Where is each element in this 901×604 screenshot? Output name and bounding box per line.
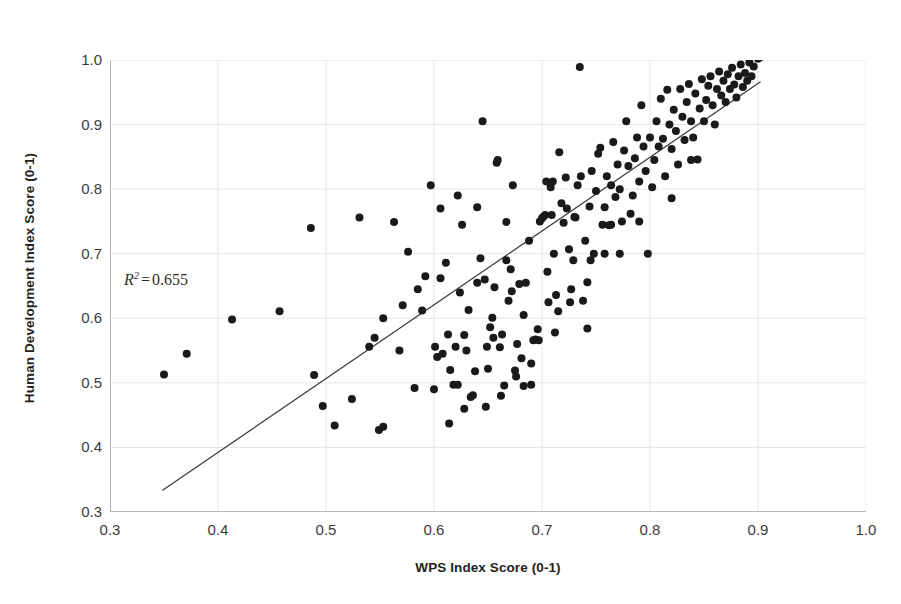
data-point — [730, 81, 738, 89]
data-point — [592, 187, 600, 195]
data-point — [609, 138, 617, 146]
data-point — [563, 205, 571, 213]
plot-canvas — [110, 60, 866, 512]
data-point — [577, 172, 585, 180]
data-point — [583, 278, 591, 286]
data-point — [542, 177, 550, 185]
data-point — [486, 323, 494, 331]
y-tick-label-0.8: 0.8 — [56, 180, 102, 197]
data-point — [460, 331, 468, 339]
data-point — [490, 283, 498, 291]
data-point — [614, 161, 622, 169]
data-point — [473, 279, 481, 287]
data-point — [588, 167, 596, 175]
data-point — [551, 328, 559, 336]
data-point — [574, 181, 582, 189]
data-point — [548, 211, 556, 219]
data-point — [657, 95, 665, 103]
r-squared-equals: = — [139, 271, 152, 288]
data-point — [678, 113, 686, 121]
data-point — [640, 143, 648, 151]
data-point — [635, 177, 643, 185]
data-point — [431, 343, 439, 351]
data-point — [655, 143, 663, 151]
data-point — [569, 256, 577, 264]
data-point — [525, 237, 533, 245]
data-point — [436, 274, 444, 282]
data-point — [454, 192, 462, 200]
data-point — [471, 367, 479, 375]
x-tick-label-0.6: 0.6 — [411, 521, 457, 538]
data-point — [458, 221, 466, 229]
data-point — [670, 106, 678, 114]
data-point — [411, 384, 419, 392]
data-point — [544, 298, 552, 306]
data-point — [737, 61, 745, 69]
data-point — [469, 391, 477, 399]
data-point — [722, 98, 730, 106]
data-point-series — [160, 60, 765, 434]
data-point — [650, 156, 658, 164]
data-point — [555, 148, 563, 156]
data-point — [476, 254, 484, 262]
data-point — [681, 136, 689, 144]
data-point — [642, 167, 650, 175]
data-point — [399, 301, 407, 309]
y-tick-label-0.4: 0.4 — [56, 438, 102, 455]
y-tick-label-1.0: 1.0 — [56, 51, 102, 68]
data-point — [460, 405, 468, 413]
x-tick-label-1.0: 1.0 — [843, 521, 889, 538]
data-point — [500, 381, 508, 389]
data-point — [414, 285, 422, 293]
data-point — [427, 181, 435, 189]
data-point — [567, 285, 575, 293]
data-point — [644, 250, 652, 258]
data-point — [579, 297, 587, 305]
data-point — [646, 133, 654, 141]
data-point — [307, 224, 315, 232]
data-point — [601, 203, 609, 211]
data-point — [481, 276, 489, 284]
data-point — [570, 213, 578, 221]
data-point — [552, 291, 560, 299]
data-point — [689, 133, 697, 141]
data-point — [442, 259, 450, 267]
data-point — [618, 217, 626, 225]
scatter-plot-figure: Human Development Index Score (0-1) WPS … — [0, 0, 901, 604]
data-point — [587, 256, 595, 264]
data-point — [390, 218, 398, 226]
x-tick-label-0.5: 0.5 — [303, 521, 349, 538]
data-point — [496, 343, 504, 351]
data-point — [482, 403, 490, 411]
data-point — [676, 85, 684, 93]
x-tick-label-0.7: 0.7 — [519, 521, 565, 538]
data-point — [674, 161, 682, 169]
y-tick-label-0.3: 0.3 — [56, 503, 102, 520]
data-point — [473, 203, 481, 211]
data-point — [494, 156, 502, 164]
data-point — [607, 181, 615, 189]
data-point — [728, 64, 736, 72]
data-point — [709, 101, 717, 109]
data-point — [696, 104, 704, 112]
data-point — [550, 250, 558, 258]
data-point — [603, 172, 611, 180]
data-point — [365, 343, 373, 351]
data-point — [633, 133, 641, 141]
data-point — [319, 402, 327, 410]
data-point — [454, 381, 462, 389]
x-tick-label-0.8: 0.8 — [627, 521, 673, 538]
data-point — [404, 248, 412, 256]
data-point — [637, 101, 645, 109]
data-point — [331, 421, 339, 429]
y-tick-label-0.7: 0.7 — [56, 245, 102, 262]
data-point — [607, 221, 615, 229]
data-point — [430, 385, 438, 393]
data-point — [484, 365, 492, 373]
data-point — [488, 314, 496, 322]
data-point — [560, 219, 568, 227]
data-point — [379, 314, 387, 322]
data-point — [527, 359, 535, 367]
data-point — [520, 311, 528, 319]
data-point — [554, 307, 562, 315]
